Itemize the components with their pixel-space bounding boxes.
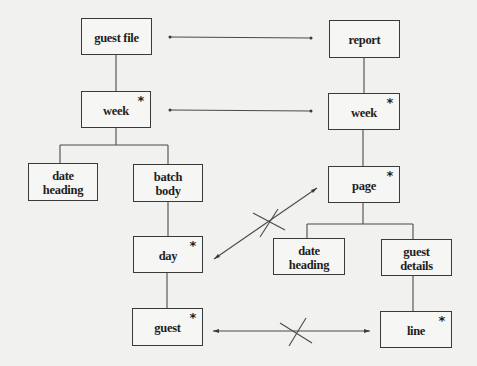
diagram-canvas: guest file week * date heading batch bod… <box>0 0 477 366</box>
arrowhead-icon <box>364 329 370 333</box>
node-batch-body: batch body <box>133 164 203 202</box>
cross-mark-guest-line-a <box>280 323 312 343</box>
node-label: line <box>407 322 425 338</box>
node-label: week <box>103 102 129 118</box>
node-guest-file: guest file <box>81 18 152 55</box>
cross-mark-guest-line-b <box>289 318 306 346</box>
node-line: line * <box>380 311 452 348</box>
node-guest: guest * <box>132 308 203 346</box>
node-date-heading-right: date heading <box>273 238 345 275</box>
node-guest-details: guest details <box>381 239 452 276</box>
node-label: report <box>349 31 381 47</box>
node-day: day * <box>133 236 203 273</box>
cross-mark-day-page-a <box>253 213 285 230</box>
arrowhead-icon <box>214 254 220 259</box>
iteration-star-icon: * <box>387 169 394 182</box>
arrowhead-icon <box>213 329 219 333</box>
node-week-right: week * <box>328 93 400 130</box>
correspondence-guestfile-report <box>170 37 311 38</box>
cross-mark-day-page-b <box>260 209 278 237</box>
node-label: guest file <box>94 29 139 45</box>
iteration-star-icon: * <box>138 94 145 107</box>
node-label: date heading <box>43 167 83 197</box>
endpoint-dot <box>310 110 313 113</box>
iteration-star-icon: * <box>190 311 197 324</box>
correspondence-week-week <box>170 110 311 111</box>
node-label: guest details <box>400 243 433 273</box>
arrowhead-icon <box>311 188 317 193</box>
iteration-star-icon: * <box>387 96 394 109</box>
endpoint-dot <box>310 37 313 40</box>
endpoint-dot <box>169 109 172 112</box>
node-label: day <box>159 247 178 263</box>
iteration-star-icon: * <box>439 314 446 327</box>
node-week-left: week * <box>81 91 151 128</box>
node-label: page <box>352 177 376 193</box>
iteration-star-icon: * <box>190 239 197 252</box>
node-page: page * <box>328 166 400 203</box>
node-label: guest <box>154 319 180 335</box>
node-report: report <box>329 20 400 58</box>
node-label: week <box>351 104 377 120</box>
node-label: batch body <box>154 168 182 198</box>
node-label: date heading <box>289 242 329 272</box>
node-date-heading-left: date heading <box>28 163 98 201</box>
endpoint-dot <box>169 36 172 39</box>
